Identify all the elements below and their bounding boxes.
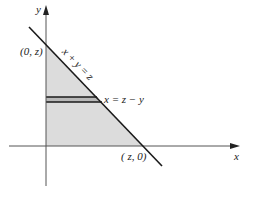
horizontal-strip — [46, 97, 98, 102]
y-axis-arrow-icon — [43, 5, 49, 15]
x-axis-arrow-icon — [230, 143, 240, 149]
diagram-canvas: y x (0, z) ( z, 0) x + y = z x = z − y — [0, 0, 253, 197]
x-axis-label: x — [234, 151, 239, 162]
strip-line-label: x = z − y — [104, 94, 144, 105]
x-intercept-label: ( z, 0) — [121, 151, 146, 162]
y-axis-label: y — [36, 4, 41, 15]
y-intercept-label: (0, z) — [20, 46, 43, 57]
